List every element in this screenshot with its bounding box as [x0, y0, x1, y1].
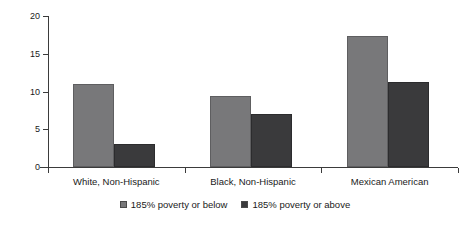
- y-tick-label: 10: [14, 87, 40, 97]
- bar: [347, 36, 388, 167]
- bar: [73, 84, 114, 167]
- legend-swatch-icon: [120, 201, 127, 208]
- legend-swatch-icon: [241, 201, 248, 208]
- bar: [388, 82, 429, 167]
- y-tick-label-container: 15: [12, 49, 40, 59]
- x-axis-category-label: Mexican American: [321, 176, 458, 188]
- x-tick-mark: [48, 168, 49, 173]
- legend-item: 185% poverty or below: [120, 199, 228, 210]
- x-tick-mark: [321, 168, 322, 173]
- x-tick-mark: [458, 168, 459, 173]
- bar: [210, 96, 251, 167]
- x-axis-category-label: White, Non-Hispanic: [48, 176, 185, 188]
- y-tick-label-container: 0: [12, 162, 40, 172]
- bar: [251, 114, 292, 167]
- y-tick-label: 0: [14, 162, 40, 172]
- y-tick-label: 5: [14, 124, 40, 134]
- y-tick-label-container: 5: [12, 124, 40, 134]
- chart-legend: 185% poverty or below185% poverty or abo…: [0, 199, 470, 210]
- y-tick-label: 20: [14, 11, 40, 21]
- legend-label: 185% poverty or above: [252, 199, 350, 210]
- x-axis-category-label: Black, Non-Hispanic: [185, 176, 322, 188]
- legend-label: 185% poverty or below: [131, 199, 228, 210]
- y-tick-label: 15: [14, 49, 40, 59]
- y-tick-label-container: 20: [12, 11, 40, 21]
- x-axis-line: [40, 167, 458, 168]
- x-tick-mark: [185, 168, 186, 173]
- plot-area: [48, 16, 458, 167]
- bar: [114, 144, 155, 167]
- bar-chart-figure: Prevalence (%) 05101520 White, Non-Hispa…: [0, 0, 470, 227]
- y-tick-label-container: 10: [12, 87, 40, 97]
- legend-item: 185% poverty or above: [241, 199, 350, 210]
